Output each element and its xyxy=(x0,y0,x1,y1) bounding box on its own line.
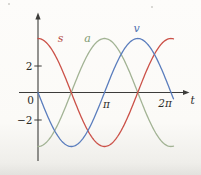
curve-label-a: a xyxy=(84,32,91,45)
scan-speck xyxy=(8,3,10,5)
origin-label: 0 xyxy=(27,94,34,106)
x-tick-label-pi: π xyxy=(102,98,111,110)
y-tick-label-neg2: −2 xyxy=(17,114,32,126)
shm-chart: asv 2 −2 0 π 2π t xyxy=(0,0,201,175)
x-axis-arrow xyxy=(183,90,190,95)
x-axis-variable-label: t xyxy=(191,94,196,106)
x-tick-label-2pi: 2π xyxy=(157,97,173,109)
figure-page: asv 2 −2 0 π 2π t xyxy=(0,0,201,175)
curves: asv xyxy=(38,22,173,147)
curve-label-v: v xyxy=(133,22,140,35)
y-tick-label-2: 2 xyxy=(26,60,33,72)
curve-label-s: s xyxy=(58,32,64,45)
y-axis-arrow xyxy=(35,13,40,20)
scan-speck xyxy=(151,6,153,8)
